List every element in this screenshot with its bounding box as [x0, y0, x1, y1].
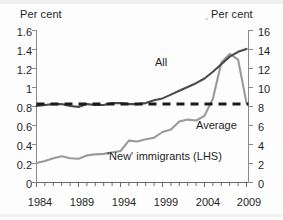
series-all-line	[37, 49, 247, 107]
series-label-average: Average	[196, 119, 237, 131]
x-axis-ticks	[37, 183, 247, 188]
series-label-new-immigrants: 'New' immigrants (LHS)	[107, 150, 222, 162]
chart-container: Per cent Per cent 1.6 1.4 1.2 1 0.8 0.6 …	[0, 0, 283, 220]
chart-plot-svg	[0, 0, 283, 220]
right-axis-ticks	[249, 31, 254, 183]
series-label-all: All	[155, 56, 167, 68]
